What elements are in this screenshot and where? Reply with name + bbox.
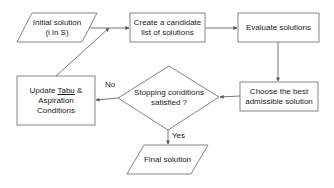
stopping-conditions-label-1: Stopping conditions — [134, 88, 204, 98]
final-solution-node: Final solution — [135, 145, 200, 174]
choose-best-node: Choose the best admissible solution — [240, 82, 318, 111]
stopping-conditions-label-2: satisfied ? — [151, 98, 187, 108]
edge-stopping-to-update — [96, 98, 118, 100]
ampersand: & — [75, 86, 83, 95]
stopping-conditions-node: Stopping conditions satisfied ? — [128, 83, 210, 113]
evaluate-solutions-node: Evaluate solutions — [238, 13, 319, 42]
tabu-word: Tabu — [57, 86, 74, 95]
create-candidate-label-1: Create a candidate — [134, 18, 202, 28]
evaluate-solutions-label: Evaluate solutions — [246, 23, 311, 33]
create-candidate-node: Create a candidate list of solutions — [130, 13, 205, 42]
update-word: Update — [30, 86, 58, 95]
edge-choose-to-stopping — [220, 96, 240, 97]
update-tabu-label-3: Conditions — [37, 106, 75, 116]
initial-solution-node: Initial solution (i in S) — [22, 13, 92, 42]
initial-solution-label: Initial solution — [33, 18, 81, 28]
final-solution-label: Final solution — [144, 155, 191, 165]
initial-solution-sublabel: (i in S) — [45, 28, 68, 38]
yes-edge-label: Yes — [172, 131, 185, 140]
choose-best-label-2: admissible solution — [245, 97, 313, 107]
update-tabu-label-1: Update Tabu & — [30, 86, 83, 96]
update-tabu-node: Update Tabu & Aspiration Conditions — [17, 76, 95, 125]
create-candidate-label-2: list of solutions — [141, 28, 193, 38]
update-tabu-label-2: Aspiration — [38, 96, 74, 106]
choose-best-label-1: Choose the best — [250, 87, 308, 97]
no-edge-label: No — [105, 80, 115, 89]
